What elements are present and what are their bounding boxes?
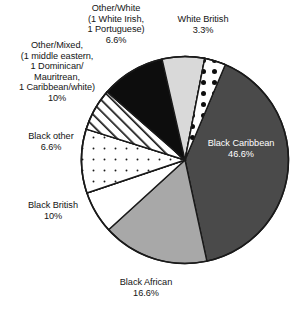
slice-label-black-other: Black other 6.6% [6, 131, 96, 152]
slice-label-black-african: Black African 16.6% [96, 277, 196, 298]
slice-label-black-british: Black British 10% [6, 200, 100, 221]
slice-label-white-british: White British 3.3% [160, 14, 246, 35]
slice-label-other-mixed: Other/Mixed, (1 middle eastern, 1 Domini… [0, 40, 114, 104]
pie-chart: Other/White (1 White Irish, 1 Portuguese… [0, 0, 304, 313]
slice-label-black-caribbean: Black Caribbean 46.6% [193, 138, 289, 159]
